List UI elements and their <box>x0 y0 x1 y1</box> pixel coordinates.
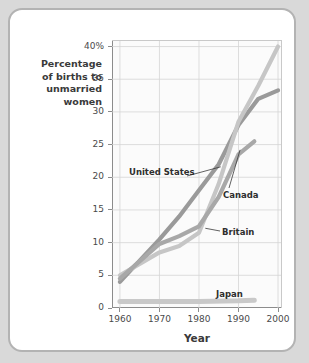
x-tick-mark <box>159 308 160 312</box>
x-tick-mark <box>278 308 279 312</box>
x-tick-label: 1990 <box>217 314 261 324</box>
x-tick-label: 2000 <box>256 314 296 324</box>
x-axis-label: Year <box>112 332 282 344</box>
y-tick-mark <box>108 275 112 276</box>
y-tick-label: 0 <box>44 302 104 312</box>
y-tick-mark <box>108 209 112 210</box>
series-label-britain: Britain <box>222 227 254 237</box>
x-tick-label: 1980 <box>177 314 221 324</box>
x-tick-label: 1960 <box>98 314 142 324</box>
x-tick-mark <box>198 308 199 312</box>
y-tick-mark <box>108 46 112 47</box>
y-tick-mark <box>108 111 112 112</box>
y-tick-mark <box>108 144 112 145</box>
y-tick-label: 5 <box>44 269 104 279</box>
series-label-canada: Canada <box>223 190 259 200</box>
y-tick-label: 30 <box>44 106 104 116</box>
y-tick-label: 35 <box>44 73 104 83</box>
y-tick-mark <box>108 177 112 178</box>
y-tick-mark <box>108 79 112 80</box>
y-tick-label: 15 <box>44 204 104 214</box>
x-tick-mark <box>238 308 239 312</box>
x-tick-mark <box>119 308 120 312</box>
y-axis-label-line-3: unmarried <box>18 83 102 96</box>
chart-figure: Percentage of births to unmarried women … <box>8 8 296 352</box>
y-tick-mark <box>108 242 112 243</box>
y-tick-label: 10 <box>44 237 104 247</box>
y-axis-label-line-1: Percentage <box>18 58 102 71</box>
y-tick-mark <box>108 308 112 309</box>
y-tick-label: 25 <box>44 139 104 149</box>
x-tick-label: 1970 <box>137 314 181 324</box>
y-tick-label: 40% <box>44 41 104 51</box>
series-label-japan: Japan <box>216 289 243 299</box>
y-tick-label: 20 <box>44 171 104 181</box>
series-label-united-states: United States <box>129 167 195 177</box>
